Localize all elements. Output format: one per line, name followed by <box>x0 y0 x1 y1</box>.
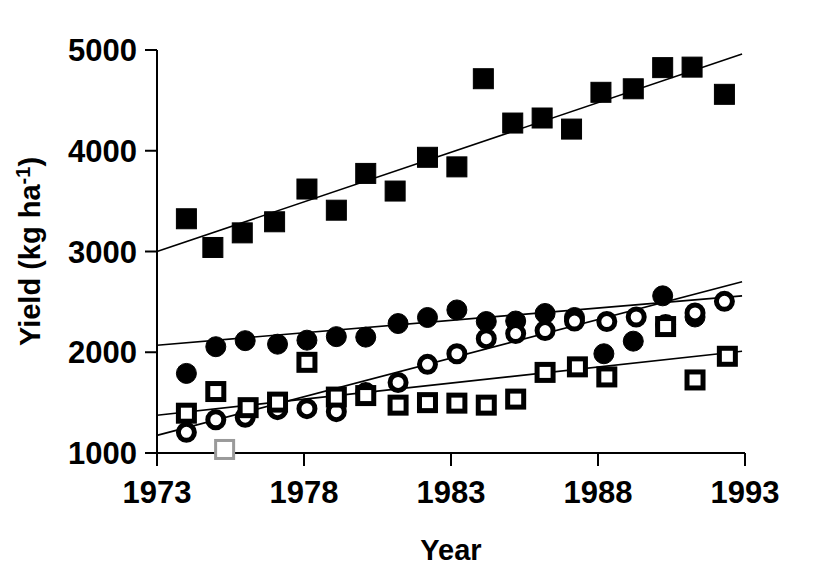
marker-open-square <box>508 391 524 407</box>
marker-open-circle <box>178 424 194 440</box>
marker-filled-circle <box>268 334 288 354</box>
marker-open-circle <box>716 293 732 309</box>
chart-figure: 1000200030004000500019731978198319881993… <box>0 0 814 573</box>
marker-filled-circle <box>297 330 317 350</box>
marker-open-square <box>390 397 406 413</box>
marker-filled-square <box>356 163 376 183</box>
marker-open-circle <box>599 314 615 330</box>
marker-filled-square <box>473 69 493 89</box>
marker-filled-square <box>714 84 734 104</box>
marker-open-circle <box>478 331 494 347</box>
x-tick-label: 1978 <box>270 475 339 510</box>
marker-open-circle <box>566 313 582 329</box>
y-tick-label: 5000 <box>68 33 137 68</box>
marker-filled-square <box>447 157 467 177</box>
marker-open-square <box>358 388 374 404</box>
marker-open-circle <box>449 346 465 362</box>
marker-open-square <box>299 354 315 370</box>
marker-filled-circle <box>447 300 467 320</box>
marker-open-circle <box>628 309 644 325</box>
y-tick-label: 2000 <box>68 335 137 370</box>
marker-open-square <box>178 405 194 421</box>
x-tick-label: 1973 <box>123 475 192 510</box>
marker-filled-square <box>623 79 643 99</box>
y-axis-title-base: Yield (kg ha <box>14 184 46 347</box>
marker-open-square <box>569 359 585 375</box>
y-axis-title: Yield (kg ha-1) <box>12 157 46 346</box>
marker-open-square <box>270 394 286 410</box>
trend-lines <box>157 54 742 435</box>
marker-open-square <box>658 319 674 335</box>
scatter-plot: 1000200030004000500019731978198319881993… <box>0 0 814 573</box>
marker-filled-circle <box>623 331 643 351</box>
y-tick-label: 4000 <box>68 134 137 169</box>
marker-open-circle <box>390 374 406 390</box>
marker-filled-circle <box>206 337 226 357</box>
trend-line-filled-square-series <box>157 54 742 251</box>
marker-open-square <box>687 372 703 388</box>
marker-filled-circle <box>326 327 346 347</box>
marker-open-square <box>240 400 256 416</box>
marker-open-square <box>449 395 465 411</box>
y-axis-title-exponent: -1 <box>12 167 34 185</box>
marker-filled-circle <box>653 286 673 306</box>
marker-open-circle <box>537 323 553 339</box>
marker-filled-square <box>176 209 196 229</box>
marker-filled-square <box>326 200 346 220</box>
marker-open-square <box>419 395 435 411</box>
marker-filled-square <box>591 82 611 102</box>
marker-filled-circle <box>388 314 408 334</box>
marker-filled-square <box>562 119 582 139</box>
marker-open-circle <box>687 305 703 321</box>
axes <box>145 50 745 466</box>
marker-open-circle <box>208 412 224 428</box>
y-tick-label: 3000 <box>68 235 137 270</box>
marker-filled-square <box>265 212 285 232</box>
marker-filled-square <box>385 181 405 201</box>
marker-filled-square <box>503 113 523 133</box>
marker-filled-square <box>532 108 552 128</box>
marker-open-square <box>328 389 344 405</box>
marker-open-circle <box>508 326 524 342</box>
marker-filled-square <box>653 58 673 78</box>
marker-filled-circle <box>594 344 614 364</box>
marker-filled-circle <box>235 331 255 351</box>
y-tick-label: 1000 <box>68 436 137 471</box>
x-tick-label: 1988 <box>564 475 633 510</box>
marker-ghost-square <box>216 440 234 458</box>
marker-filled-square <box>297 179 317 199</box>
marker-filled-circle <box>356 327 376 347</box>
marker-open-square <box>478 397 494 413</box>
marker-filled-circle <box>176 363 196 383</box>
data-points <box>176 57 735 458</box>
y-axis-title-tail: ) <box>14 157 46 167</box>
x-tick-label: 1993 <box>711 475 780 510</box>
x-tick-label: 1983 <box>417 475 486 510</box>
marker-open-square <box>719 348 735 364</box>
marker-open-square <box>537 364 553 380</box>
marker-open-square <box>208 384 224 400</box>
marker-filled-square <box>232 223 252 243</box>
marker-open-circle <box>419 356 435 372</box>
marker-filled-square <box>417 147 437 167</box>
marker-open-square <box>599 369 615 385</box>
marker-filled-square <box>203 237 223 257</box>
marker-open-circle <box>299 401 315 417</box>
marker-filled-circle <box>417 307 437 327</box>
x-axis-title: Year <box>420 534 481 566</box>
marker-filled-square <box>682 57 702 77</box>
